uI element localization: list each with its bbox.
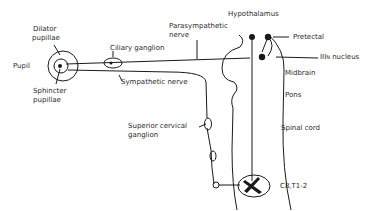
pretectal-nucleus-dot (265, 34, 271, 40)
eye-outer-circle (48, 51, 78, 81)
sphincter-label-line1: Sphincter (33, 87, 66, 95)
superior-cervical-label-line2: ganglion (128, 131, 158, 139)
pons-label: Pons (285, 91, 301, 99)
ciliary-ganglion-dot (110, 62, 113, 65)
eye-center-dot (58, 64, 62, 68)
dilator-label-line1: Dilator (33, 25, 56, 33)
sympathetic-chain-node (213, 182, 219, 188)
segment-label: C8,T1-2 (280, 182, 307, 190)
brainstem-left-outline (222, 35, 243, 210)
third-nucleus-superscript: N (326, 54, 330, 60)
sphincter-label-line2: pupillae (33, 96, 61, 104)
midbrain-label: Midbrain (285, 69, 315, 77)
sympathetic-nerve-label: Sympathetic nerve (121, 78, 187, 86)
third-nucleus-dot (259, 54, 265, 60)
superior-cervical-label-line1: Superior cervical (128, 122, 187, 130)
c8-t1-2-segment (238, 175, 270, 197)
third-nucleus-label: IIIN nucleus (320, 53, 359, 61)
parasympathetic-label-line1: Parasympathetic (169, 22, 228, 30)
third-nucleus-word: nucleus (332, 53, 359, 61)
ciliary-ganglion-label: Ciliary ganglion (110, 44, 164, 52)
third-nucleus-pointer (276, 57, 318, 58)
pretectal-label: Pretectal (293, 33, 324, 41)
hypothalamus-nucleus-dot (249, 34, 255, 40)
spinal-cord-label: Spinal cord (281, 124, 320, 132)
hypothalamus-label: Hypothalamus (228, 10, 279, 18)
parasympathetic-label-line2: nerve (169, 31, 189, 39)
dilator-label-line2: pupillae (32, 34, 60, 42)
pupil-label: Pupil (13, 62, 30, 70)
